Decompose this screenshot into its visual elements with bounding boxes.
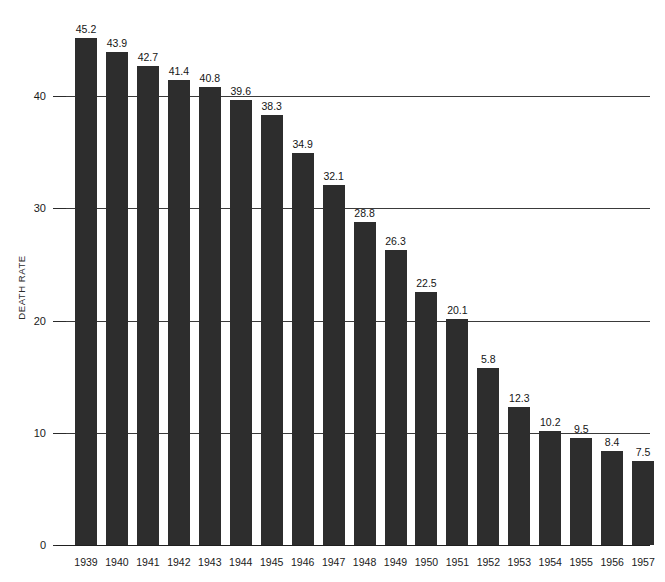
y-axis-tick <box>53 433 66 434</box>
bar <box>354 222 376 545</box>
bar-value-label: 39.6 <box>221 86 261 97</box>
bar-value-label: 20.1 <box>437 305 477 316</box>
bar-value-label: 42.7 <box>128 52 168 63</box>
bar <box>508 407 530 545</box>
bar-value-label: 32.1 <box>314 171 354 182</box>
bar-value-label: 8.4 <box>592 437 632 448</box>
bar <box>168 80 190 545</box>
bar <box>292 153 314 545</box>
bar <box>230 100 252 545</box>
bar <box>446 319 468 545</box>
bar <box>539 431 561 545</box>
y-axis-tick-label: 20 <box>20 316 46 327</box>
bar-value-label: 40.8 <box>190 73 230 84</box>
bar-value-label: 5.8 <box>468 354 508 365</box>
bar-chart: DEATH RATE 010203040 45.243.942.741.440.… <box>0 0 665 582</box>
bar-value-label: 34.9 <box>283 139 323 150</box>
bar-value-label: 43.9 <box>97 38 137 49</box>
bar-value-label: 28.8 <box>345 208 385 219</box>
bar-value-label: 9.5 <box>561 424 601 435</box>
y-axis-tick-label: 10 <box>20 428 46 439</box>
bar <box>601 451 623 545</box>
x-axis-baseline <box>56 545 650 546</box>
y-axis-tick-label: 40 <box>20 91 46 102</box>
plot-area: 010203040 45.243.942.741.440.839.638.334… <box>0 0 665 582</box>
bar <box>199 87 221 545</box>
bar <box>261 115 283 545</box>
x-axis-label: 1957 <box>623 557 663 568</box>
bar-value-label: 26.3 <box>376 236 416 247</box>
y-axis-tick <box>53 96 66 97</box>
y-axis-tick <box>53 208 66 209</box>
bar <box>570 438 592 545</box>
bar-value-label: 38.3 <box>252 101 292 112</box>
bar <box>385 250 407 545</box>
bar-value-label: 12.3 <box>499 393 539 404</box>
y-axis-tick-label: 0 <box>20 540 46 551</box>
bar <box>106 52 128 545</box>
bar <box>477 368 499 545</box>
y-axis-tick <box>53 321 66 322</box>
bar <box>75 38 97 545</box>
bar-value-label: 7.5 <box>623 447 663 458</box>
bar-value-label: 45.2 <box>66 24 106 35</box>
bar-value-label: 22.5 <box>406 278 446 289</box>
bar <box>415 292 437 545</box>
bar <box>137 66 159 545</box>
y-axis-tick-label: 30 <box>20 203 46 214</box>
bar <box>323 185 345 545</box>
bar <box>632 461 654 545</box>
